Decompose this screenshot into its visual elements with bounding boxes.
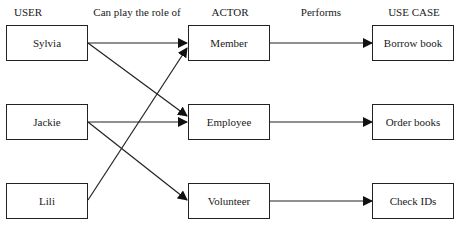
use-case-box-check-ids: Check IDs	[372, 183, 454, 219]
user-box-jackie: Jackie	[6, 104, 88, 140]
use-case-box-order-books: Order books	[372, 104, 454, 140]
actor-box-member: Member	[188, 25, 270, 61]
user-box-sylvia: Sylvia	[6, 25, 88, 61]
use-case-diagram: USER Can play the role of ACTOR Performs…	[0, 0, 459, 225]
actor-box-employee: Employee	[188, 104, 270, 140]
use-case-box-borrow-book: Borrow book	[372, 25, 454, 61]
actor-box-volunteer: Volunteer	[188, 183, 270, 219]
user-box-lili: Lili	[6, 183, 88, 219]
